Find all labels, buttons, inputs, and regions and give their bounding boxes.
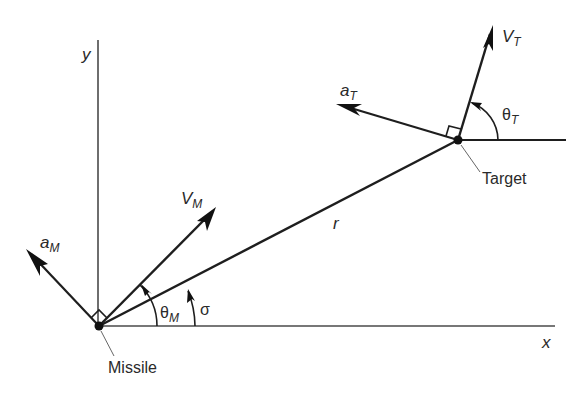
target-velocity-vector (458, 34, 490, 140)
missile-leader-line (101, 331, 114, 356)
missile-velocity-label: VM (181, 189, 202, 211)
target-point (454, 136, 463, 145)
x-axis-label: x (541, 333, 551, 352)
target-acceleration-label: aT (340, 81, 358, 103)
target-velocity-arrowhead-icon (483, 25, 493, 51)
line-of-sight (99, 140, 458, 326)
engagement-diagram: y x r VM aM Missile θM σ VT aT Target θT (0, 0, 586, 396)
theta-t-label: θT (502, 106, 520, 127)
missile-right-angle-marker (91, 310, 107, 318)
missile-label: Missile (108, 359, 157, 376)
missile-acceleration-arrowhead-icon (26, 249, 48, 276)
target-velocity-label: VT (502, 27, 522, 49)
range-label: r (333, 214, 340, 233)
target-leader-line (461, 145, 480, 172)
target-label: Target (482, 170, 527, 187)
missile-acceleration-label: aM (40, 233, 59, 255)
sigma-label: σ (200, 301, 210, 318)
y-axis-label: y (81, 45, 92, 64)
target-acceleration-vector (344, 106, 458, 140)
theta-m-arrowhead-icon (141, 284, 152, 296)
missile-point (95, 322, 104, 331)
theta-t-arc (472, 103, 498, 140)
theta-m-label: θM (160, 304, 179, 325)
